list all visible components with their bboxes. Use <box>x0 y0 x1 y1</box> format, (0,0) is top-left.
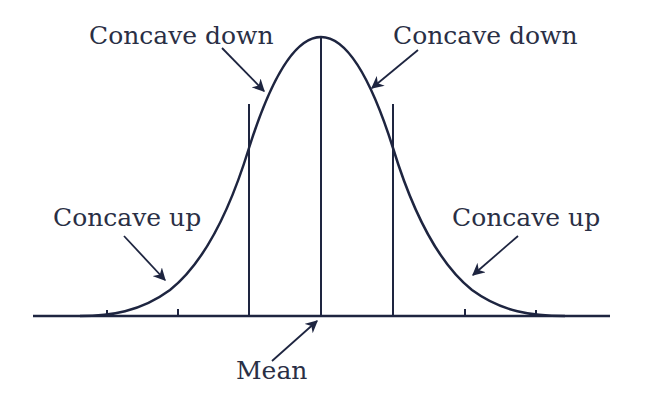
arrow-concave-up-left <box>124 236 165 280</box>
arrow-concave-down-right <box>372 50 418 88</box>
bell-curve <box>80 37 565 316</box>
label-concave-up-right: Concave up <box>452 203 600 232</box>
normal-curve-diagram: Concave down Concave down Concave up Con… <box>0 0 651 411</box>
label-concave-down-left: Concave down <box>89 21 274 50</box>
label-concave-down-right: Concave down <box>393 21 578 50</box>
arrow-concave-down-left <box>222 48 264 91</box>
arrow-mean <box>272 321 317 361</box>
label-concave-up-left: Concave up <box>53 203 201 232</box>
arrow-concave-up-right <box>473 236 518 275</box>
